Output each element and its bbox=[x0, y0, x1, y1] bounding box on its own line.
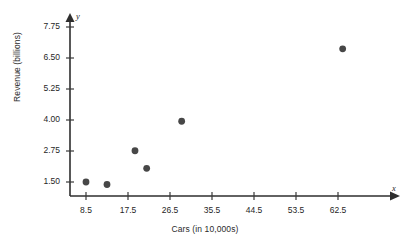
axes-group bbox=[66, 13, 401, 201]
data-point bbox=[178, 118, 185, 125]
data-point bbox=[143, 165, 150, 172]
x-axis-arrow bbox=[390, 192, 400, 201]
tick-marks-group bbox=[66, 27, 338, 200]
data-point bbox=[339, 45, 346, 52]
scatter-chart: Revenue (billions) Cars (in 10,000s) x y… bbox=[0, 0, 407, 247]
data-points-group bbox=[83, 45, 346, 187]
plot-area bbox=[0, 0, 407, 247]
data-point bbox=[104, 181, 111, 188]
y-axis-arrow bbox=[66, 13, 75, 22]
data-point bbox=[83, 179, 90, 186]
data-point bbox=[132, 147, 139, 154]
